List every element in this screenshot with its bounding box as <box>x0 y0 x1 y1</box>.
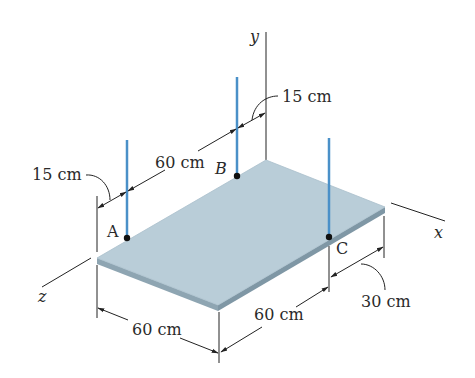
dim-label-top-ab: 60 cm <box>155 153 205 172</box>
leader-bottom-right <box>361 264 385 290</box>
x-axis-label: x <box>434 223 443 242</box>
point-b <box>234 173 240 179</box>
point-b-label: B <box>214 159 227 178</box>
y-axis-label: y <box>249 27 260 46</box>
point-a-label: A <box>106 222 119 241</box>
dim-label-bottom-mid: 60 cm <box>254 305 304 324</box>
dim-bottom-left-1 <box>98 308 128 320</box>
point-a <box>124 235 130 241</box>
leader-top-right <box>252 96 278 120</box>
plate-top <box>97 160 385 305</box>
leader-top-left <box>86 175 110 200</box>
x-axis <box>391 203 445 221</box>
dim-bottom-mid-1 <box>221 327 262 352</box>
plate-diagram: y x z A B C 15 cm 60 cm 15 cm 60 cm 60 c… <box>0 0 475 378</box>
point-c-label: C <box>336 239 348 258</box>
dim-bottom-mid-2 <box>296 287 328 307</box>
z-axis-label: z <box>37 287 47 306</box>
dim-label-bottom-right: 30 cm <box>361 292 411 311</box>
point-c <box>326 234 332 240</box>
dim-ab-1 <box>128 170 165 191</box>
dim-ab-2 <box>198 129 236 151</box>
dim-bottom-left-2 <box>180 338 218 353</box>
dim-label-bottom-left: 60 cm <box>132 320 182 339</box>
dim-left-offset <box>98 192 126 208</box>
dim-right-offset <box>238 113 265 128</box>
z-axis <box>42 258 91 287</box>
dim-label-top-right: 15 cm <box>282 87 332 106</box>
dim-label-top-left: 15 cm <box>32 165 82 184</box>
